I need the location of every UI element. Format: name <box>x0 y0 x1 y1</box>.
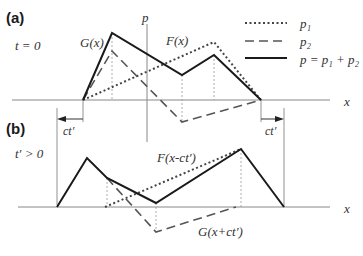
p1-curve-a <box>83 42 261 100</box>
legend-item-p2: p₂ <box>299 34 312 49</box>
arrow-right-icon <box>275 116 284 122</box>
panel-a: (a) t = 0 p G(x) F(x) x <box>6 9 350 142</box>
p-axis-label: p <box>141 10 149 25</box>
arrow-left-icon <box>57 116 66 122</box>
time-label-b: t′ > 0 <box>15 146 44 161</box>
f-curve-label: F(x) <box>165 33 188 48</box>
panel-b: (b) t′ > 0 F(x-ct′) G(x+ct′) x <box>6 120 350 239</box>
panel-b-label: (b) <box>6 120 25 137</box>
shift-left-label: ct′ <box>63 124 75 138</box>
g-curve-label: G(x) <box>80 35 104 50</box>
legend: p₁ p₂ p = p₁ + p₂ <box>245 16 360 67</box>
g-shifted-label: G(x+ct′) <box>198 224 243 239</box>
f-shifted-label: F(x-ct′) <box>156 150 196 165</box>
shift-right-label: ct′ <box>265 124 277 138</box>
wave-superposition-diagram: (a) t = 0 p G(x) F(x) x ct′ ct′ (b) <box>0 0 363 256</box>
x-axis-label-a: x <box>343 94 350 109</box>
p2-curve-a <box>83 51 261 122</box>
panel-a-label: (a) <box>6 9 24 26</box>
legend-item-sum: p = p₁ + p₂ <box>299 52 360 67</box>
legend-item-p1: p₁ <box>299 16 311 31</box>
x-axis-label-b: x <box>343 201 350 216</box>
time-label-a: t = 0 <box>15 38 41 53</box>
